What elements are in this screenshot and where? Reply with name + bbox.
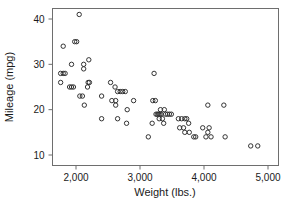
data-point <box>152 71 156 75</box>
data-point <box>222 103 226 107</box>
x-axis-tick-labels: 2,0003,0004,0005,000 <box>63 172 280 183</box>
data-point <box>206 130 210 134</box>
y-axis-title: Mileage (mpg) <box>3 52 15 122</box>
x-tick-label: 3,000 <box>127 172 152 183</box>
data-point <box>69 62 73 66</box>
x-tick-label: 5,000 <box>255 172 280 183</box>
data-point <box>81 67 85 71</box>
data-point <box>161 121 165 125</box>
y-tick-label: 10 <box>33 150 45 161</box>
data-point <box>209 135 213 139</box>
data-point <box>206 103 210 107</box>
data-point <box>77 12 81 16</box>
y-tick-label: 40 <box>33 14 45 25</box>
data-point <box>99 117 103 121</box>
data-point <box>115 117 119 121</box>
data-point <box>82 103 86 107</box>
data-point <box>108 80 112 84</box>
data-point <box>131 98 135 102</box>
data-point <box>99 94 103 98</box>
data-point <box>124 121 128 125</box>
data-point <box>87 58 91 62</box>
x-axis-title: Weight (lbs.) <box>134 186 196 198</box>
scatter-plot-figure: 2,0003,0004,0005,000 10203040 Weight (lb… <box>0 0 293 207</box>
x-axis-ticks <box>76 166 268 170</box>
plot-frame <box>53 9 279 166</box>
data-point-group <box>58 12 260 148</box>
data-point <box>113 85 117 89</box>
data-point <box>249 144 253 148</box>
data-point <box>160 117 164 121</box>
data-point <box>183 130 187 134</box>
x-tick-label: 2,000 <box>63 172 88 183</box>
y-tick-label: 20 <box>33 104 45 115</box>
data-point <box>125 107 129 111</box>
data-point <box>223 135 227 139</box>
data-point <box>150 121 154 125</box>
chart-canvas: 2,0003,0004,0005,000 10203040 Weight (lb… <box>0 0 293 207</box>
data-point <box>61 44 65 48</box>
data-point <box>58 80 62 84</box>
y-axis-ticks <box>49 19 53 155</box>
data-point <box>204 135 208 139</box>
data-point <box>81 62 85 66</box>
data-point <box>186 121 190 125</box>
y-axis-tick-labels: 10203040 <box>33 14 45 161</box>
data-point <box>85 85 89 89</box>
y-tick-label: 30 <box>33 59 45 70</box>
x-tick-label: 4,000 <box>191 172 216 183</box>
data-point <box>256 144 260 148</box>
data-point <box>201 126 205 130</box>
data-point <box>146 135 150 139</box>
data-point <box>207 126 211 130</box>
data-point <box>187 130 191 134</box>
data-point <box>113 103 117 107</box>
